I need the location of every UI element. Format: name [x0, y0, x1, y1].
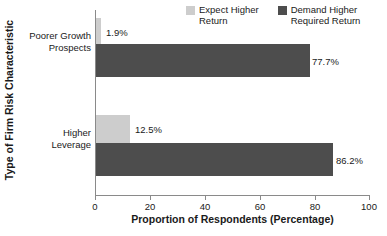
category-label-line2: Prospects	[13, 42, 91, 54]
legend-swatch-icon-dark	[278, 6, 287, 15]
legend-label-line1: Expect Higher	[199, 4, 259, 15]
x-axis-tick-label-60: 60	[255, 201, 266, 212]
legend-label-line2: Required Return	[291, 15, 361, 26]
category-label-line1: Poorer Growth	[13, 30, 91, 42]
bar-value-higher-leverage-demand: 86.2%	[336, 155, 363, 166]
bar-chart: Type of Firm Risk Characteristic Poorer …	[0, 0, 387, 236]
x-axis-tick-100	[369, 196, 370, 200]
bar-poorer-growth-expect-higher-return	[96, 18, 101, 44]
bar-higher-leverage-demand-higher-required-return	[96, 143, 333, 176]
x-axis-tick-20	[150, 196, 151, 200]
legend-label-line1: Demand Higher	[291, 4, 361, 15]
x-axis-tick-label-40: 40	[200, 201, 211, 212]
legend-swatch-icon-light	[186, 6, 195, 15]
legend-label-demand-higher-required-return: Demand Higher Required Return	[291, 4, 361, 26]
legend-item-demand-higher-required-return[interactable]: Demand Higher Required Return	[278, 4, 361, 26]
legend-label-line2: Return	[199, 15, 259, 26]
category-label-line2: Leverage	[13, 139, 91, 151]
x-axis-tick-0	[95, 196, 96, 200]
x-axis-tick-label-20: 20	[145, 201, 156, 212]
x-axis-line	[95, 195, 370, 196]
x-axis-tick-label-0: 0	[92, 201, 97, 212]
plot-area: 0 20 40 60 80 100 1.9% 77.7% 12.5% 86.2%	[95, 10, 370, 196]
bar-poorer-growth-demand-higher-required-return	[96, 44, 310, 77]
x-axis-title: Proportion of Respondents (Percentage)	[95, 213, 370, 225]
legend-label-expect-higher-return: Expect Higher Return	[199, 4, 259, 26]
category-label-line1: Higher	[13, 127, 91, 139]
x-axis-tick-label-100: 100	[361, 201, 377, 212]
category-label-poorer-growth-prospects: Poorer Growth Prospects	[13, 30, 95, 53]
x-axis-tick-label-80: 80	[310, 201, 321, 212]
legend-item-expect-higher-return[interactable]: Expect Higher Return	[186, 4, 259, 26]
bar-value-poorer-growth-expect: 1.9%	[106, 27, 128, 38]
category-label-higher-leverage: Higher Leverage	[13, 127, 95, 150]
x-axis-tick-60	[260, 196, 261, 200]
x-axis-tick-40	[205, 196, 206, 200]
x-axis-tick-80	[315, 196, 316, 200]
bar-value-poorer-growth-demand: 77.7%	[312, 56, 339, 67]
bar-higher-leverage-expect-higher-return	[96, 115, 130, 143]
bar-value-higher-leverage-expect: 12.5%	[135, 124, 162, 135]
legend: Expect Higher Return Demand Higher Requi…	[186, 4, 360, 26]
